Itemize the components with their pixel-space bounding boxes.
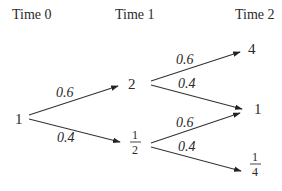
time-2-label: Time 2 bbox=[235, 7, 275, 22]
fraction-denominator: 4 bbox=[252, 165, 258, 179]
fraction-denominator: 2 bbox=[132, 143, 138, 157]
edge-t0-up bbox=[29, 86, 118, 115]
prob-label: 0.4 bbox=[57, 130, 75, 145]
node-t1-down: 1 2 bbox=[130, 128, 141, 157]
node-t2-downdown: 1 4 bbox=[250, 150, 261, 179]
edge-down-mid bbox=[151, 113, 240, 143]
prob-label: 0.4 bbox=[178, 139, 196, 154]
fraction-numerator: 1 bbox=[132, 128, 138, 142]
edge-down-downdown bbox=[151, 147, 241, 171]
node-t1-up: 2 bbox=[128, 76, 136, 92]
prob-label: 0.6 bbox=[176, 52, 194, 67]
tree-diagram: Time 0 Time 1 Time 2 0.6 0.4 0.6 0.4 0.6… bbox=[0, 0, 282, 191]
node-t0: 1 bbox=[15, 111, 23, 127]
prob-label: 0.4 bbox=[178, 76, 196, 91]
node-t2-upup: 4 bbox=[248, 41, 256, 57]
node-t2-mid: 1 bbox=[254, 101, 262, 117]
edge-up-upup bbox=[151, 52, 240, 81]
prob-label: 0.6 bbox=[176, 115, 194, 130]
prob-label: 0.6 bbox=[56, 85, 74, 100]
edge-up-mid bbox=[151, 85, 242, 109]
edge-t0-down bbox=[29, 119, 120, 142]
time-1-label: Time 1 bbox=[115, 7, 155, 22]
fraction-numerator: 1 bbox=[252, 150, 258, 164]
time-0-label: Time 0 bbox=[12, 7, 52, 22]
